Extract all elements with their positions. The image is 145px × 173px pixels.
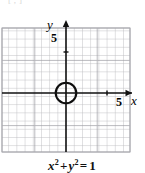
figure-root: [ , ] — [0, 0, 145, 173]
y-axis-label: y — [47, 18, 53, 31]
axis-ticks — [64, 52, 108, 96]
equation-caption: x2+y2=1 — [0, 157, 145, 173]
caption-rhs: 1 — [88, 158, 97, 173]
caption-var-x: x — [48, 158, 55, 173]
y-axis-tick-label-5: 5 — [51, 32, 57, 44]
caption-equals: = — [79, 158, 89, 173]
x-axis-tick-label-5: 5 — [116, 96, 122, 108]
x-axis-label: x — [131, 94, 137, 107]
coordinate-graph: y x 5 5 — [0, 14, 145, 158]
clipped-header-text: [ , ] — [0, 0, 145, 11]
equation-caption-text: x2+y2=1 — [48, 158, 97, 173]
graph-axes-and-curve — [0, 14, 145, 158]
clipped-header-text-value: [ , ] — [8, 0, 22, 5]
y-axis — [63, 20, 69, 152]
caption-plus: + — [59, 158, 69, 173]
x-axis — [2, 90, 132, 96]
